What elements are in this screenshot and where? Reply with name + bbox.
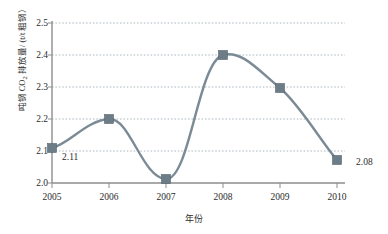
data-point-2006 <box>105 115 114 124</box>
data-point-2007 <box>162 175 171 184</box>
data-point-2005 <box>48 144 57 153</box>
data-point-2010 <box>333 156 342 165</box>
x-axis-title: 年份 <box>0 212 388 225</box>
data-point-2009 <box>276 84 285 93</box>
gridlines <box>52 23 345 151</box>
x-axis-ticks <box>52 183 337 188</box>
plot-area <box>0 0 388 234</box>
data-point-2008 <box>219 51 228 60</box>
chart-container: 吨钢 CO2 排放量/ (t/t 粗钢） 2.5 2.4 2.3 2.2 2.1… <box>0 0 388 234</box>
data-line-series <box>52 54 337 179</box>
